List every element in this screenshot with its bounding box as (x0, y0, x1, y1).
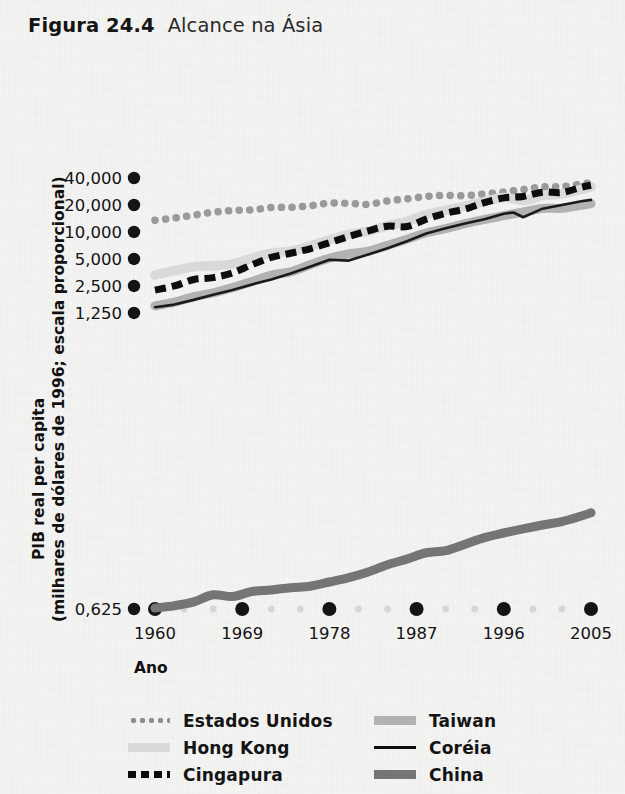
x-axis-tick-label: 1996 (483, 624, 525, 643)
x-axis-tick-dot (410, 602, 424, 616)
legend-label: Taiwan (429, 711, 496, 731)
y-axis-title: PIB real per capita (milhares de dólares… (30, 176, 68, 622)
chart-legend: Estados Unidos Taiwan Hong Kong Coréia C… (128, 707, 598, 789)
y-axis-tick-label: 40,000 (64, 169, 122, 188)
x-axis-tick-label: 1969 (221, 624, 263, 643)
y-axis-tick-dot (128, 199, 140, 211)
y-axis-tick-dot (128, 172, 140, 184)
legend-item-china[interactable]: China (374, 762, 598, 788)
legend-label: Coréia (429, 738, 492, 758)
x-axis-tick-label: 1960 (134, 624, 176, 643)
y-axis-tick-dot (128, 253, 140, 265)
chart-series-layer (155, 183, 591, 608)
chart-plot-area: 40,00020,00010,0005,0002,5001,2500,625 1… (0, 0, 625, 700)
x-axis-minor-tick-dot (297, 606, 304, 613)
x-axis-tick-dot (584, 602, 598, 616)
chart-svg: 40,00020,00010,0005,0002,5001,2500,625 1… (0, 0, 625, 700)
series-line-taiwan (155, 204, 591, 306)
x-axis-tick-dot (497, 602, 511, 616)
x-axis-minor-tick-dot (268, 606, 275, 613)
y-axis-tick-dot (128, 226, 140, 238)
legend-item-hong-kong[interactable]: Hong Kong (128, 735, 374, 761)
y-axis-tick-dot (128, 280, 140, 292)
dotted-line-swatch-icon (128, 714, 170, 728)
y-axis-title-line-2: (milhares de dólares de 1996; escala pro… (50, 176, 68, 622)
x-axis-minor-tick-dot (471, 606, 478, 613)
thick-light-line-swatch-icon (128, 743, 170, 752)
x-axis-tick-dot (235, 602, 249, 616)
x-axis-ticks (148, 602, 598, 616)
legend-item-cingapura[interactable]: Cingapura (128, 762, 374, 788)
x-axis-minor-tick-dot (442, 606, 449, 613)
y-axis-tick-label: 2,500 (75, 277, 122, 296)
x-axis-title: Ano (134, 659, 168, 677)
y-axis-tick-dot (128, 603, 140, 615)
x-axis-tick-dot (322, 602, 336, 616)
x-axis-minor-tick-dot (355, 606, 362, 613)
thick-gray-line-swatch-icon (374, 716, 416, 725)
series-line-china (155, 513, 591, 608)
y-axis-tick-label: 20,000 (64, 196, 122, 215)
y-axis-tick-dot (128, 307, 140, 319)
x-axis-minor-tick-dot (559, 606, 566, 613)
legend-label: Cingapura (183, 765, 283, 785)
x-axis-minor-tick-dot (210, 606, 217, 613)
y-axis-tick-label: 5,000 (75, 250, 122, 269)
x-axis-tick-label: 1978 (308, 624, 350, 643)
y-axis-title-line-1: PIB real per capita (30, 398, 48, 560)
legend-label: Hong Kong (183, 738, 290, 758)
x-axis-minor-tick-dot (384, 606, 391, 613)
thick-dark-line-swatch-icon (374, 770, 416, 779)
x-axis-tick-labels: 196019691978198719962005 (134, 624, 612, 643)
legend-item-estados-unidos[interactable]: Estados Unidos (128, 708, 374, 734)
y-axis-tick-label: 10,000 (64, 223, 122, 242)
thin-black-line-swatch-icon (374, 746, 416, 749)
legend-item-coreia[interactable]: Coréia (374, 735, 598, 761)
y-axis-ticks: 40,00020,00010,0005,0002,5001,2500,625 (64, 169, 140, 619)
y-axis-tick-label: 0,625 (75, 600, 122, 619)
figure-container: Figura 24.4 Alcance na Ásia 40,00020,000… (0, 0, 625, 794)
y-axis-tick-label: 1,250 (75, 304, 122, 323)
x-axis-minor-tick-dot (529, 606, 536, 613)
legend-label: Estados Unidos (183, 711, 333, 731)
x-axis-tick-label: 2005 (570, 624, 612, 643)
legend-label: China (429, 765, 484, 785)
legend-item-taiwan[interactable]: Taiwan (374, 708, 598, 734)
x-axis-tick-label: 1987 (396, 624, 438, 643)
dashed-line-swatch-icon (128, 771, 170, 778)
